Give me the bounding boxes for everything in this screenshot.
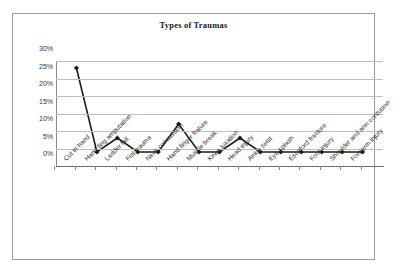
x-tick [136, 166, 137, 170]
x-tick [340, 166, 341, 170]
x-tick [320, 166, 321, 170]
x-tick [95, 166, 96, 170]
x-tick [75, 166, 76, 170]
x-tick [279, 166, 280, 170]
x-tick [259, 166, 260, 170]
x-tick [156, 166, 157, 170]
x-tick [218, 166, 219, 170]
x-tick [299, 166, 300, 170]
x-tick [361, 166, 362, 170]
x-tick [116, 166, 117, 170]
x-axis-tick-labels: Cut in handHand fing amputationLadder fa… [13, 14, 395, 273]
x-tick [177, 166, 178, 170]
x-tick [54, 166, 55, 170]
x-tick [197, 166, 198, 170]
x-tick [238, 166, 239, 170]
chart-frame: Types of Traumas 30%25%20%15%10%5%0% Cut… [12, 13, 375, 260]
